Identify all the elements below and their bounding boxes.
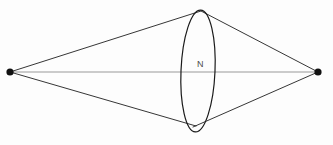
lens-diagram: N xyxy=(0,0,333,145)
left-vertex-point xyxy=(6,68,13,75)
ellipse-label-n: N xyxy=(197,59,204,69)
right-vertex-point xyxy=(314,68,321,75)
figure-canvas: N xyxy=(0,0,333,145)
